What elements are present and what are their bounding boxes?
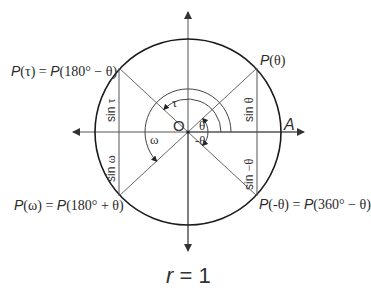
- point-omega-label: P(ω) = P(180° + θ): [14, 198, 124, 213]
- equals: =: [42, 198, 57, 213]
- equals: =: [35, 64, 50, 79]
- origin-label: O: [173, 118, 185, 133]
- point-arg: (ω): [23, 198, 42, 213]
- point-p: P: [259, 196, 268, 212]
- point-arg: (180° + θ): [66, 198, 124, 213]
- angle-omega-label: ω: [150, 133, 159, 146]
- point-p: P: [57, 197, 66, 213]
- sine-fn: sin: [104, 103, 118, 122]
- sine-label-omega: sin ω: [105, 155, 117, 182]
- angle-theta-label: θ: [199, 119, 205, 132]
- equals: =: [289, 197, 304, 212]
- angle-tau-label: τ: [172, 96, 177, 109]
- point-arg: (180° − θ): [60, 64, 118, 79]
- point-arg: (θ): [269, 53, 285, 68]
- point-tau-label: P(τ) = P(180° − θ): [11, 64, 117, 79]
- radius-caption: r = 1: [166, 265, 211, 287]
- sine-fn: sin: [242, 171, 256, 190]
- unit-circle-diagram: O A θ -θ τ ω P(θ) P(τ) = P(180° − θ) P(ω…: [0, 0, 371, 297]
- point-p: P: [50, 63, 59, 79]
- angle-neg-theta-label: -θ: [195, 134, 206, 147]
- point-p: P: [11, 63, 20, 79]
- sine-label-neg-theta: sin −θ: [243, 159, 255, 190]
- sine-label-tau: sin τ: [105, 98, 117, 122]
- point-p: P: [260, 52, 269, 68]
- point-arg: (360° − θ): [313, 197, 371, 212]
- sine-arg: θ: [242, 98, 256, 104]
- diagram-canvas: [0, 0, 371, 297]
- sine-fn: sin: [104, 163, 118, 182]
- sine-label-theta: sin θ: [243, 98, 255, 122]
- radius-value: = 1: [173, 263, 210, 288]
- point-a-label: A: [284, 117, 295, 133]
- sine-arg: τ: [104, 98, 118, 103]
- point-p: P: [14, 197, 23, 213]
- origin-dot: [186, 130, 189, 133]
- point-arg: (τ): [20, 64, 35, 79]
- sine-arg: ω: [104, 155, 118, 163]
- point-neg-theta-label: P(-θ) = P(360° − θ): [259, 197, 371, 212]
- point-arg: (-θ): [268, 197, 289, 212]
- point-theta-label: P(θ): [260, 53, 285, 68]
- point-p: P: [304, 196, 313, 212]
- sine-fn: sin: [242, 103, 256, 122]
- sine-arg: −θ: [242, 159, 256, 172]
